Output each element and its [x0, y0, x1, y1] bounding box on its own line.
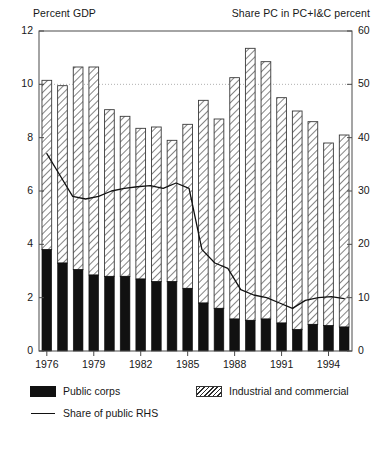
- bar-group: [198, 100, 208, 351]
- bar-segment-public-corps: [277, 323, 287, 351]
- bar-segment-public-corps: [42, 250, 52, 351]
- bar-group: [261, 62, 271, 351]
- bar-group: [292, 111, 302, 351]
- bar-segment-public-corps: [261, 319, 271, 351]
- bar-series-layer: [42, 48, 349, 351]
- legend-label: Share of public RHS: [63, 407, 158, 419]
- right-axis-caption: Share PC in PC+I&C percent: [232, 7, 370, 19]
- bar-group: [167, 140, 177, 351]
- bar-group: [277, 98, 287, 351]
- bar-segment-industrial-commercial: [198, 100, 208, 303]
- bar-segment-industrial-commercial: [261, 62, 271, 319]
- bar-group: [230, 78, 240, 351]
- x-axis-tick-label: 1976: [27, 358, 67, 370]
- y-axis-tick-label: 4: [9, 237, 33, 249]
- bar-segment-public-corps: [308, 324, 318, 351]
- bar-group: [136, 128, 146, 351]
- legend-swatch-line-icon: [30, 408, 56, 419]
- bar-segment-industrial-commercial: [152, 127, 162, 282]
- bar-segment-public-corps: [136, 279, 146, 351]
- y-axis-tick-label: 0: [9, 344, 33, 356]
- y-axis-tick-label: 10: [9, 77, 33, 89]
- y2-axis-tick-label: 0: [358, 344, 382, 356]
- bar-segment-public-corps: [245, 320, 255, 351]
- left-axis-caption: Percent GDP: [33, 7, 96, 19]
- legend-item: Industrial and commercial: [196, 385, 349, 397]
- bar-segment-industrial-commercial: [167, 140, 177, 281]
- legend-item: Public corps: [30, 385, 120, 397]
- y-axis-tick-label: 12: [9, 24, 33, 36]
- bar-group: [183, 124, 193, 351]
- bar-segment-public-corps: [58, 263, 68, 351]
- bar-segment-industrial-commercial: [42, 80, 52, 249]
- x-axis-tick-label: 1991: [262, 358, 302, 370]
- bar-group: [339, 135, 349, 351]
- bar-segment-industrial-commercial: [292, 111, 302, 330]
- bar-group: [324, 143, 334, 351]
- bar-segment-industrial-commercial: [120, 116, 130, 276]
- legend-label: Industrial and commercial: [229, 385, 349, 397]
- axis-frame: [39, 31, 352, 351]
- x-axis-tick-label: 1988: [215, 358, 255, 370]
- y2-axis-tick-label: 50: [358, 77, 382, 89]
- y-axis-tick-label: 6: [9, 184, 33, 196]
- bar-segment-public-corps: [214, 308, 224, 351]
- bar-group: [89, 67, 99, 351]
- bar-segment-industrial-commercial: [183, 124, 193, 288]
- bar-segment-public-corps: [198, 303, 208, 351]
- bar-group: [105, 110, 115, 351]
- bar-segment-industrial-commercial: [277, 98, 287, 323]
- y2-axis-tick-label: 20: [358, 237, 382, 249]
- bar-group: [42, 80, 52, 351]
- x-axis-tick-label: 1994: [309, 358, 349, 370]
- bar-segment-public-corps: [324, 326, 334, 351]
- chart-plot-area: [0, 0, 382, 380]
- chart-container: Percent GDP Share PC in PC+I&C percent 0…: [0, 0, 382, 449]
- bar-segment-public-corps: [339, 327, 349, 351]
- bar-segment-public-corps: [152, 282, 162, 351]
- bar-segment-public-corps: [183, 288, 193, 351]
- legend-item: Share of public RHS: [30, 407, 158, 419]
- bar-segment-public-corps: [167, 282, 177, 351]
- y2-axis-tick-label: 60: [358, 24, 382, 36]
- bar-segment-public-corps: [230, 319, 240, 351]
- bar-segment-industrial-commercial: [324, 143, 334, 326]
- bar-group: [152, 127, 162, 351]
- bar-segment-public-corps: [105, 276, 115, 351]
- x-axis-tick-label: 1982: [121, 358, 161, 370]
- bar-segment-industrial-commercial: [308, 122, 318, 325]
- plot-frame: [39, 31, 352, 351]
- bar-segment-industrial-commercial: [214, 119, 224, 308]
- legend-swatch-solid-icon: [30, 386, 56, 397]
- axis-ticks: [39, 31, 352, 356]
- bar-group: [308, 122, 318, 351]
- y-axis-tick-label: 2: [9, 291, 33, 303]
- legend-swatch-hatch-icon: [196, 386, 222, 397]
- y2-axis-tick-label: 40: [358, 131, 382, 143]
- bar-segment-public-corps: [73, 270, 83, 351]
- bar-group: [58, 86, 68, 351]
- bar-segment-public-corps: [120, 276, 130, 351]
- bar-segment-public-corps: [89, 275, 99, 351]
- bar-segment-public-corps: [292, 330, 302, 351]
- bar-segment-industrial-commercial: [245, 48, 255, 320]
- y2-axis-tick-label: 30: [358, 184, 382, 196]
- y2-axis-tick-label: 10: [358, 291, 382, 303]
- bar-segment-industrial-commercial: [136, 128, 146, 279]
- y-axis-tick-label: 8: [9, 131, 33, 143]
- bar-group: [120, 116, 130, 351]
- bar-segment-industrial-commercial: [89, 67, 99, 275]
- bar-segment-industrial-commercial: [230, 78, 240, 319]
- bar-group: [245, 48, 255, 351]
- bar-segment-industrial-commercial: [73, 67, 83, 270]
- x-axis-tick-label: 1979: [74, 358, 114, 370]
- bar-group: [214, 119, 224, 351]
- x-axis-tick-label: 1985: [168, 358, 208, 370]
- legend-label: Public corps: [63, 385, 120, 397]
- bar-group: [73, 67, 83, 351]
